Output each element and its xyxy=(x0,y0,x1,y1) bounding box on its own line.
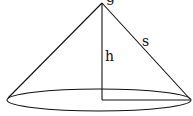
left-slant-edge xyxy=(8,3,102,98)
cone-diagram: g h s xyxy=(0,0,193,116)
height-label: h xyxy=(105,48,114,64)
apex-label: g xyxy=(106,0,115,5)
slant-label: s xyxy=(142,33,149,49)
right-slant-edge xyxy=(102,3,190,99)
